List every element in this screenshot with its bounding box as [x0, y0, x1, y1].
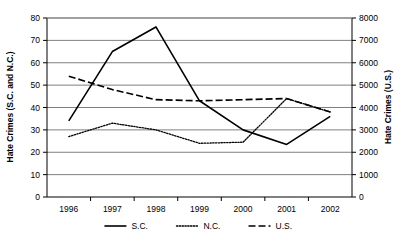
left-axis-tick-label: 60 [31, 58, 41, 68]
legend-label: N.C. [203, 221, 220, 231]
left-axis-ticks [43, 18, 47, 197]
chart-legend: S.C.N.C.U.S. [104, 221, 292, 231]
right-axis-tick-label: 4000 [359, 103, 378, 113]
x-axis-tick-label: 1997 [103, 204, 122, 214]
chart-container: 01020304050607080 0100020003000400050006… [0, 0, 402, 241]
left-axis-title: Hate Crimes (S.C. and N.C.) [5, 51, 15, 162]
right-axis-tick-label: 6000 [359, 58, 378, 68]
legend-item-nc: N.C. [176, 221, 220, 231]
x-axis-tick-label: 2001 [277, 204, 296, 214]
left-axis-tick-label: 0 [35, 192, 40, 202]
left-axis-tick-label: 50 [31, 80, 41, 90]
left-axis-tick-label: 30 [31, 125, 41, 135]
legend-item-us: U.S. [249, 221, 293, 231]
right-axis-tick-label: 0 [359, 192, 364, 202]
left-axis-tick-label: 10 [31, 170, 41, 180]
right-axis-tick-label: 5000 [359, 80, 378, 90]
right-axis-tick-label: 3000 [359, 125, 378, 135]
left-axis-tick-label: 40 [31, 103, 41, 113]
x-axis-tick-label: 2002 [321, 204, 340, 214]
hate-crimes-line-chart: 01020304050607080 0100020003000400050006… [0, 0, 402, 241]
right-axis-tick-labels: 010002000300040005000600070008000 [359, 13, 378, 202]
right-axis-tick-label: 2000 [359, 147, 378, 157]
left-axis-tick-label: 20 [31, 147, 41, 157]
x-axis-ticks [91, 197, 309, 201]
right-axis-tick-label: 8000 [359, 13, 378, 23]
right-axis-title: Hate Crimes (U.S.) [383, 70, 393, 144]
right-axis-ticks [352, 18, 356, 197]
right-axis-tick-label: 7000 [359, 35, 378, 45]
x-axis-tick-label: 1999 [190, 204, 209, 214]
x-axis-tick-label: 1996 [59, 204, 78, 214]
x-axis-tick-labels: 1996199719981999200020012002 [59, 204, 340, 214]
x-axis-tick-label: 2000 [234, 204, 253, 214]
right-axis-tick-label: 1000 [359, 170, 378, 180]
legend-label: U.S. [276, 221, 293, 231]
legend-item-sc: S.C. [104, 221, 148, 231]
x-axis-tick-label: 1998 [146, 204, 165, 214]
left-axis-tick-label: 80 [31, 13, 41, 23]
left-axis-tick-labels: 01020304050607080 [31, 13, 41, 202]
left-axis-tick-label: 70 [31, 35, 41, 45]
legend-label: S.C. [131, 221, 148, 231]
